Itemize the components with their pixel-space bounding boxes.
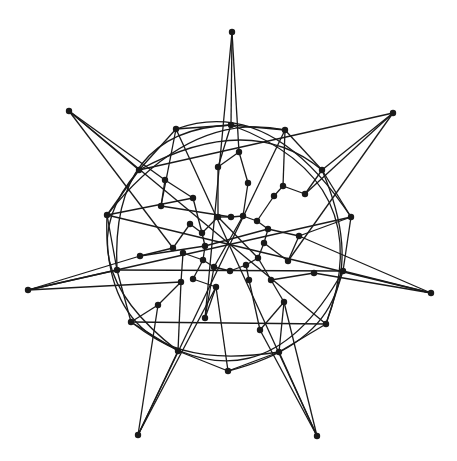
graph-node — [302, 191, 308, 197]
graph-node — [213, 284, 219, 290]
graph-node — [25, 287, 31, 293]
graph-node — [202, 315, 208, 321]
graph-node — [137, 253, 143, 259]
graph-node — [180, 250, 186, 256]
graph-node — [268, 277, 274, 283]
graph-node — [280, 183, 286, 189]
graph-node — [162, 177, 168, 183]
graph-node — [225, 368, 231, 374]
graph-node — [175, 348, 181, 354]
graph-node — [104, 212, 110, 218]
graph-node — [66, 108, 72, 114]
graph-node — [340, 268, 346, 274]
graph-node — [215, 214, 221, 220]
graph-node — [296, 233, 302, 239]
graph-node — [271, 193, 277, 199]
graph-node — [128, 319, 134, 325]
graph-node — [228, 214, 234, 220]
graph-node — [228, 122, 234, 128]
graph-node — [136, 167, 142, 173]
graph-node — [155, 302, 161, 308]
graph-node — [187, 221, 193, 227]
graph-node — [202, 243, 208, 249]
graph-node — [243, 262, 249, 268]
graph-node — [428, 290, 434, 296]
graph-node — [282, 127, 288, 133]
graph-node — [246, 277, 252, 283]
graph-node — [211, 264, 217, 270]
graph-node — [190, 276, 196, 282]
graph-node — [261, 240, 267, 246]
graph-node — [265, 226, 271, 232]
graph-node — [199, 230, 205, 236]
graph-node — [276, 349, 282, 355]
graph-node — [255, 255, 261, 261]
graph-canvas — [0, 0, 457, 461]
graph-node — [236, 149, 242, 155]
graph-node — [390, 110, 396, 116]
graph-node — [200, 257, 206, 263]
graph-node — [245, 180, 251, 186]
graph-node — [229, 29, 235, 35]
graph-node — [348, 214, 354, 220]
graph-node — [215, 164, 221, 170]
graph-node — [281, 299, 287, 305]
graph-node — [323, 321, 329, 327]
graph-node — [240, 213, 246, 219]
graph-node — [170, 245, 176, 251]
graph-node — [254, 218, 260, 224]
graph-node — [311, 270, 317, 276]
graph-node — [227, 268, 233, 274]
graph-node — [319, 167, 325, 173]
graph-node — [257, 327, 263, 333]
graph-node — [190, 195, 196, 201]
graph-node — [178, 279, 184, 285]
graph-node — [135, 432, 141, 438]
graph-node — [114, 267, 120, 273]
graph-node — [158, 203, 164, 209]
graph-node — [173, 126, 179, 132]
graph-node — [314, 433, 320, 439]
graph-node — [285, 258, 291, 264]
